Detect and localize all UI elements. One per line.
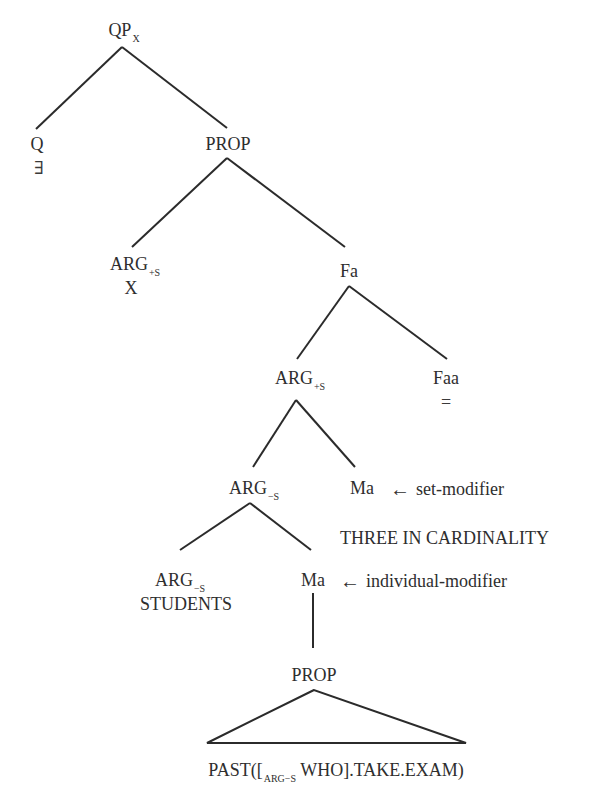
individual-modifier-annotation: ←individual-modifier — [340, 570, 507, 591]
node-ma-set: Ma — [350, 478, 374, 498]
node-arg-minus: ARG−S — [229, 478, 279, 501]
set-modifier-annotation: ←set-modifier — [390, 478, 504, 499]
branch-arg-minus-ma — [250, 503, 311, 550]
branch-prop-fa — [227, 158, 345, 247]
node-fa: Fa — [340, 261, 358, 281]
arg-x-value: X — [125, 278, 138, 298]
set-modifier-value: THREE IN CARDINALITY — [340, 528, 549, 548]
branch-qp-q — [36, 47, 122, 129]
node-prop-top: PROP — [205, 134, 250, 154]
node-qp: QPX — [108, 20, 139, 43]
node-q: Q — [31, 134, 44, 154]
equals-symbol: = — [441, 392, 451, 412]
branch-fa-arg — [297, 286, 349, 359]
node-faa: Faa — [433, 368, 459, 388]
branch-prop-arg — [132, 158, 227, 247]
branch-qp-prop — [122, 47, 227, 128]
branch-arg-minus-arg — [180, 503, 250, 550]
node-arg-plus: ARG+S — [275, 368, 325, 391]
node-arg-students: ARG−S — [155, 570, 205, 593]
node-ma-ind: Ma — [301, 570, 325, 590]
students-value: STUDENTS — [140, 594, 232, 614]
exists-symbol: ∃ — [34, 158, 44, 178]
node-prop-bottom: PROP — [291, 665, 336, 685]
node-arg-x: ARG+S — [110, 254, 160, 277]
left-arrow-icon: ← — [340, 570, 360, 592]
prop-triangle — [207, 690, 466, 743]
branch-arg-plus-ma — [296, 400, 355, 467]
branch-arg-plus-arg-minus — [253, 400, 296, 467]
leaf-expression: PAST([ARG−S WHO].TAKE.EXAM) — [208, 760, 463, 783]
branch-fa-faa — [349, 286, 447, 359]
left-arrow-icon: ← — [390, 478, 410, 500]
